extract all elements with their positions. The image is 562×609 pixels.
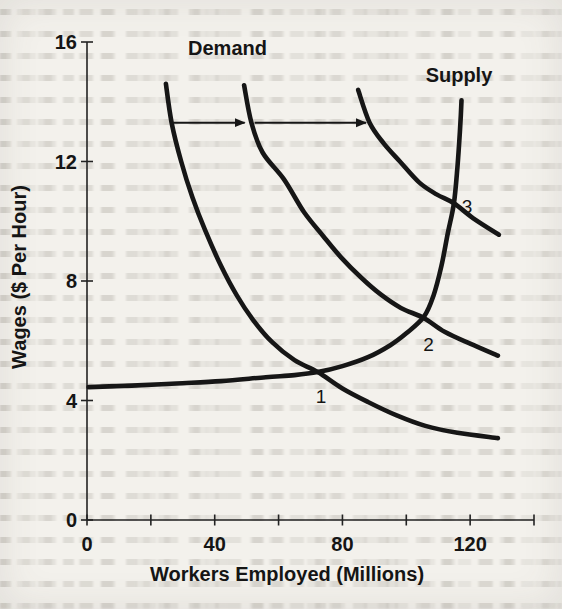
y-tick-label: 16 xyxy=(55,31,77,53)
x-tick-label: 0 xyxy=(81,533,92,555)
x-tick-label: 80 xyxy=(331,533,353,555)
y-tick-label: 12 xyxy=(55,151,77,173)
y-tick-label: 4 xyxy=(66,390,78,412)
x-tick-label: 120 xyxy=(453,533,486,555)
demand-curve-label: Demand xyxy=(188,37,267,59)
axes xyxy=(87,42,534,520)
scanned-page: 040801200481216 DemandSupply123 Workers … xyxy=(0,0,562,609)
y-tick-label: 0 xyxy=(66,509,77,531)
axis-ticks xyxy=(81,42,534,526)
y-tick-label: 8 xyxy=(66,270,77,292)
demand-curve xyxy=(166,84,498,438)
demand-curve xyxy=(358,90,499,235)
axis-tick-labels: 040801200481216 xyxy=(55,31,487,555)
y-axis-title: Wages ($ Per Hour) xyxy=(8,185,30,369)
x-axis-title: Workers Employed (Millions) xyxy=(150,563,424,585)
equilibrium-point-label: 3 xyxy=(462,196,473,217)
equilibrium-point-label: 1 xyxy=(316,386,327,407)
supply-demand-chart: 040801200481216 DemandSupply123 Workers … xyxy=(0,0,562,609)
x-tick-label: 40 xyxy=(204,533,226,555)
annotations: DemandSupply123 xyxy=(188,37,493,407)
supply-curve-label: Supply xyxy=(426,64,494,86)
equilibrium-point-label: 2 xyxy=(423,334,434,355)
curves xyxy=(89,84,499,438)
